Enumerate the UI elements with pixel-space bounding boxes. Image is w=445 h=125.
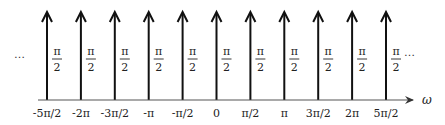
impulse-group: π2-5π/2π2-2ππ2-3π/2π2-ππ2-π/2π20π2π/2π2π… xyxy=(33,12,401,120)
left-ellipsis: … xyxy=(14,48,25,61)
impulse-arrow: π25π/2 xyxy=(374,12,401,120)
weight-numerator: π xyxy=(291,45,298,58)
impulse-arrow: π2-2π xyxy=(72,12,96,120)
impulse-arrow: π2π xyxy=(279,12,299,120)
weight-denominator: 2 xyxy=(325,61,332,74)
impulse-arrow: π23π/2 xyxy=(306,12,333,120)
weight-numerator: π xyxy=(223,45,230,58)
weight-denominator: 2 xyxy=(291,61,298,74)
impulse-arrow: π2-π xyxy=(143,12,163,120)
weight-numerator: π xyxy=(87,45,94,58)
tick-label: 5π/2 xyxy=(374,107,399,120)
impulse-arrow: π2-π/2 xyxy=(172,12,198,120)
weight-denominator: 2 xyxy=(155,61,162,74)
tick-label: -π/2 xyxy=(172,107,194,120)
tick-label: -3π/2 xyxy=(100,107,129,120)
weight-denominator: 2 xyxy=(223,61,230,74)
right-ellipsis: … xyxy=(404,46,415,59)
weight-denominator: 2 xyxy=(121,61,128,74)
axis-label-omega: ω xyxy=(422,93,432,107)
weight-denominator: 2 xyxy=(359,61,366,74)
tick-label: -5π/2 xyxy=(33,107,62,120)
weight-denominator: 2 xyxy=(189,61,196,74)
weight-numerator: π xyxy=(392,45,399,58)
weight-numerator: π xyxy=(53,45,60,58)
impulse-arrow: π2-3π/2 xyxy=(100,12,129,120)
weight-denominator: 2 xyxy=(87,61,94,74)
tick-label: -2π xyxy=(72,107,90,120)
weight-denominator: 2 xyxy=(257,61,264,74)
weight-numerator: π xyxy=(358,45,365,58)
impulse-arrow: π20 xyxy=(212,12,232,120)
tick-label: π xyxy=(281,107,288,120)
tick-label: 0 xyxy=(213,107,220,120)
weight-numerator: π xyxy=(257,45,264,58)
weight-numerator: π xyxy=(325,45,332,58)
impulse-arrow: π2-5π/2 xyxy=(33,12,62,120)
weight-denominator: 2 xyxy=(54,61,61,74)
weight-numerator: π xyxy=(155,45,162,58)
tick-label: -π xyxy=(143,107,154,120)
tick-label: π/2 xyxy=(241,107,259,120)
weight-numerator: π xyxy=(189,45,196,58)
weight-denominator: 2 xyxy=(393,61,400,74)
impulse-arrow: π2π/2 xyxy=(241,12,265,120)
impulse-train-diagram: π2-5π/2π2-2ππ2-3π/2π2-ππ2-π/2π20π2π/2π2π… xyxy=(0,0,445,125)
tick-label: 2π xyxy=(345,107,359,120)
tick-label: 3π/2 xyxy=(306,107,331,120)
impulse-arrow: π22π xyxy=(345,12,367,120)
weight-numerator: π xyxy=(121,45,128,58)
